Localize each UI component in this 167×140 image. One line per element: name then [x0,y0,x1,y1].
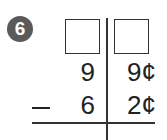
bottom-tens-digit: 6 [75,92,95,118]
minus-sign-icon [32,107,50,109]
answer-box-ones[interactable] [114,19,149,54]
top-ones-digit: 9¢ [118,59,156,85]
answer-box-tens[interactable] [65,19,100,54]
bottom-ones-digit: 2¢ [118,92,156,118]
problem-number-badge: 6 [7,16,33,42]
sum-line [32,122,155,124]
top-tens-digit: 9 [75,59,95,85]
